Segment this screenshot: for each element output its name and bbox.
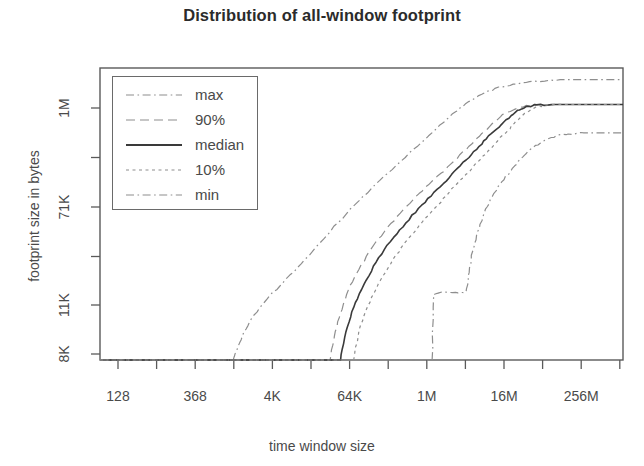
y-tick-label: 11K bbox=[55, 282, 73, 328]
y-tick-label: 71K bbox=[55, 184, 73, 230]
legend-item-label: median bbox=[195, 137, 244, 152]
legend-line-swatch bbox=[125, 87, 183, 103]
legend-item-label: min bbox=[195, 187, 219, 202]
x-tick-label: 16M bbox=[490, 388, 517, 404]
x-tick-label: 64K bbox=[337, 388, 362, 404]
legend-line-swatch bbox=[125, 112, 183, 128]
legend-item-min: min bbox=[113, 182, 257, 207]
chart-figure: Distribution of all-window footprint foo… bbox=[0, 0, 644, 466]
legend-item-median: median bbox=[113, 132, 257, 157]
legend-item-90pct: 90% bbox=[113, 107, 257, 132]
y-tick-label: 8K bbox=[55, 331, 73, 377]
x-tick-label: 4K bbox=[264, 388, 281, 404]
legend-item-label: 10% bbox=[195, 162, 225, 177]
legend-item-max: max bbox=[113, 82, 257, 107]
legend-line-swatch bbox=[125, 137, 183, 153]
x-tick-label: 128 bbox=[106, 388, 129, 404]
legend-line-swatch bbox=[125, 187, 183, 203]
legend-item-label: 90% bbox=[195, 112, 225, 127]
x-tick-label: 1M bbox=[417, 388, 436, 404]
legend: max90%median10%min bbox=[112, 76, 258, 210]
x-tick-label: 256M bbox=[564, 388, 599, 404]
legend-line-swatch bbox=[125, 162, 183, 178]
x-axis-label: time window size bbox=[0, 438, 644, 454]
plot-area bbox=[0, 0, 644, 466]
legend-item-10pct: 10% bbox=[113, 157, 257, 182]
y-tick-label: 1M bbox=[55, 85, 73, 131]
y-axis-label: footprint size in bytes bbox=[26, 86, 42, 346]
legend-item-label: max bbox=[195, 87, 223, 102]
x-tick-label: 368 bbox=[184, 388, 207, 404]
